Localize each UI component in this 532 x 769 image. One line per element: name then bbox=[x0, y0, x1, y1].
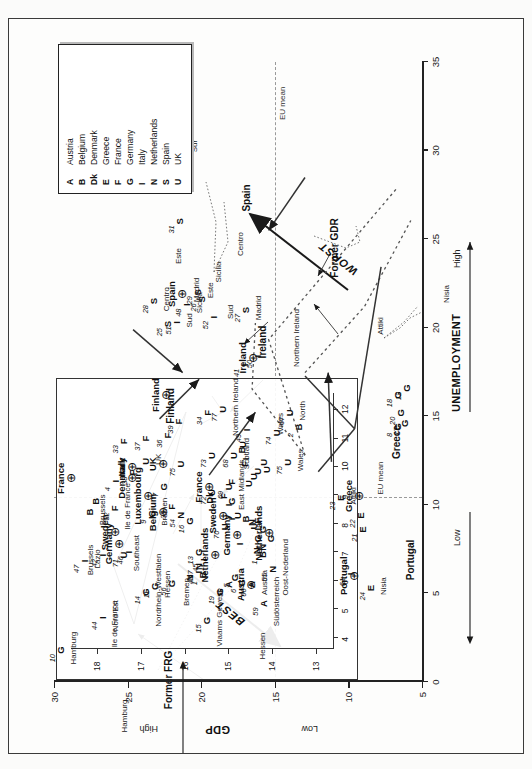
legend-row: AAustria bbox=[65, 115, 77, 185]
legend-row: SSpain bbox=[161, 115, 173, 185]
legend-label: Belgium bbox=[77, 115, 89, 165]
legend-key: G bbox=[125, 165, 137, 185]
legend-key: B bbox=[77, 165, 89, 185]
legend-key: E bbox=[101, 165, 113, 185]
legend-label: Denmark bbox=[89, 115, 101, 165]
legend-label: France bbox=[113, 115, 125, 165]
legend-row: FFrance bbox=[113, 115, 125, 185]
rotated-figure: EU mean EU mean bbox=[18, 30, 514, 742]
legend-label: Germany bbox=[125, 115, 137, 165]
legend-row: NNetherlands bbox=[149, 115, 161, 185]
figure-canvas: EU mean EU mean bbox=[18, 30, 514, 742]
legend-table: AAustriaBBelgiumDkDenmarkEGreeceFFranceG… bbox=[65, 115, 185, 185]
legend-row: BBelgium bbox=[77, 115, 89, 185]
legend-label: UK bbox=[173, 115, 185, 165]
legend-row: GGermany bbox=[125, 115, 137, 185]
legend-row: IItaly bbox=[137, 115, 149, 185]
legend-key: F bbox=[113, 165, 125, 185]
legend-label: Italy bbox=[137, 115, 149, 165]
legend-key: S bbox=[161, 165, 173, 185]
legend-key: Dk bbox=[89, 165, 101, 185]
legend-label: Netherlands bbox=[149, 115, 161, 165]
legend-label: Austria bbox=[65, 115, 77, 165]
country-key-legend: AAustriaBBelgiumDkDenmarkEGreeceFFranceG… bbox=[58, 44, 192, 194]
legend-row: UUK bbox=[173, 115, 185, 185]
legend-key: A bbox=[65, 165, 77, 185]
legend-row: DkDenmark bbox=[89, 115, 101, 185]
legend-key: I bbox=[137, 165, 149, 185]
legend-row: EGreece bbox=[101, 115, 113, 185]
legend-key: U bbox=[173, 165, 185, 185]
legend-label: Spain bbox=[161, 115, 173, 165]
page-border: EU mean EU mean bbox=[8, 18, 524, 754]
legend-label: Greece bbox=[101, 115, 113, 165]
legend-key: N bbox=[149, 165, 161, 185]
scanned-page: EU mean EU mean bbox=[0, 0, 532, 769]
